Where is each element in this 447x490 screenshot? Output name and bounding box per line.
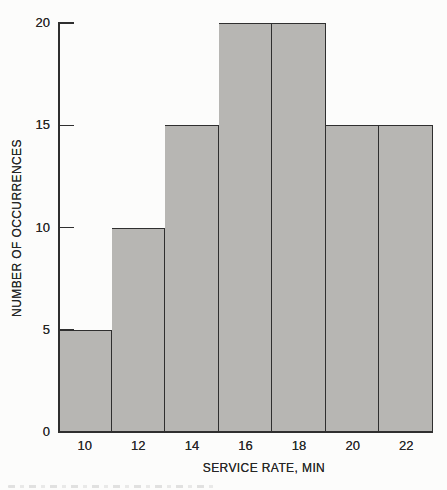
y-tick-15 (58, 125, 74, 126)
x-tick-label-12: 12 (116, 438, 160, 454)
x-tick-label-20: 20 (331, 438, 375, 454)
y-tick-label-0: 0 (18, 424, 50, 440)
bar-18 (272, 23, 326, 432)
y-tick-label-5: 5 (18, 322, 50, 338)
histogram-figure: NUMBER OF OCCURRENCES SERVICE RATE, MIN … (0, 0, 447, 490)
bars-group (58, 23, 433, 432)
cropped-caption-fragment (8, 485, 216, 488)
x-tick-label-10: 10 (63, 438, 107, 454)
y-tick-label-15: 15 (18, 117, 50, 133)
bar-16 (219, 23, 273, 432)
plot-area (58, 23, 433, 432)
bar-22 (379, 125, 433, 432)
bar-14 (165, 125, 219, 432)
bar-20 (326, 125, 380, 432)
y-tick-5 (58, 329, 74, 330)
y-tick-20 (58, 22, 74, 23)
x-tick-label-22: 22 (384, 438, 428, 454)
y-tick-label-10: 10 (18, 220, 50, 236)
bar-12 (112, 228, 166, 433)
x-axis-line (58, 431, 433, 433)
y-tick-label-20: 20 (18, 15, 50, 31)
x-tick-label-14: 14 (170, 438, 214, 454)
bar-10 (58, 330, 112, 432)
x-axis-title: SERVICE RATE, MIN (203, 461, 325, 475)
x-tick-label-18: 18 (277, 438, 321, 454)
x-tick-label-16: 16 (224, 438, 268, 454)
y-tick-10 (58, 227, 74, 228)
